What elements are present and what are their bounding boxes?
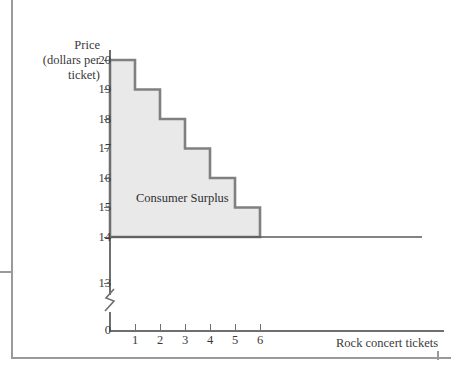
y-tick-label-20: 20: [85, 54, 111, 66]
y-tick-label-18: 18: [85, 113, 111, 125]
x-axis-title: Rock concert tickets: [336, 336, 438, 350]
y-tick-label-13-wrap: 13: [70, 277, 111, 289]
y-tick-label-16: 16: [85, 172, 111, 184]
x-tick-mark-1: [135, 324, 136, 331]
y-tick-label-0: 0: [85, 324, 111, 336]
consumer-surplus-label: Consumer Surplus: [136, 191, 229, 205]
x-tick-label-1: 1: [125, 334, 145, 347]
x-tick-mark-5: [235, 324, 236, 331]
y-axis-title-line-3: ticket): [2, 68, 100, 83]
y-tick-label-17-wrap: 17: [70, 142, 111, 154]
y-tick-label-19-wrap: 19: [70, 83, 111, 95]
x-tick-label-3: 3: [175, 334, 195, 347]
y-tick-label-17: 17: [85, 142, 111, 154]
y-tick-label-13: 13: [85, 277, 111, 289]
x-tick-mark-2: [160, 324, 161, 331]
y-axis-title-line-1: Price: [2, 38, 100, 53]
y-tick-label-19: 19: [85, 83, 111, 95]
x-tick-label-5: 5: [225, 334, 245, 347]
x-tick-label-2: 2: [150, 334, 170, 347]
x-tick-label-4: 4: [200, 334, 220, 347]
y-tick-label-0-wrap: 0: [70, 324, 111, 336]
y-tick-label-14: 14: [85, 231, 111, 243]
x-tick-label-6: 6: [250, 334, 270, 347]
y-tick-label-14-wrap: 14: [70, 231, 111, 243]
x-tick-mark-3: [185, 324, 186, 331]
y-tick-label-16-wrap: 16: [70, 172, 111, 184]
y-tick-label-15: 15: [85, 201, 111, 213]
y-axis-break-icon: [100, 288, 122, 316]
y-tick-label-18-wrap: 18: [70, 113, 111, 125]
y-tick-label-20-wrap: 20: [70, 54, 111, 66]
x-tick-mark-4: [210, 324, 211, 331]
chart-figure: Price (dollars per ticket) 20 19 18 17 1…: [0, 0, 451, 374]
y-tick-label-15-wrap: 15: [70, 201, 111, 213]
x-tick-mark-6: [260, 324, 261, 331]
